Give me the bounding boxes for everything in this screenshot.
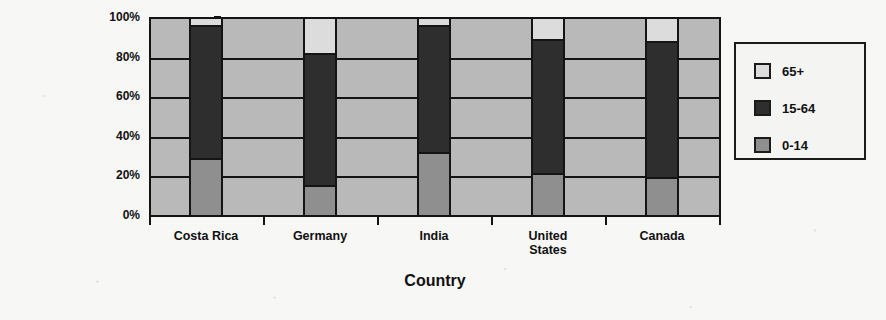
y-axis-tick-label: 20% — [72, 169, 140, 181]
legend-item[interactable]: 0-14 — [754, 137, 808, 153]
x-axis-tick-mark — [149, 217, 151, 225]
legend-label: 15-64 — [782, 101, 815, 116]
y-axis-tick-labels: 0%20%40%60%80%100% — [72, 10, 140, 222]
x-axis-title: Country — [149, 272, 721, 290]
x-axis-tick-label: Canada — [612, 229, 712, 243]
gridlines — [151, 19, 721, 217]
x-axis-tick-label: India — [384, 229, 484, 243]
x-axis-tick-label: Germany — [270, 229, 370, 243]
y-axis-tick-label: 60% — [72, 90, 140, 102]
y-axis-tick-label: 0% — [72, 209, 140, 221]
legend-item[interactable]: 15-64 — [754, 100, 815, 116]
plot-area — [149, 17, 721, 217]
legend-label: 0-14 — [782, 138, 808, 153]
gridline — [151, 176, 721, 178]
legend-swatch-icon — [754, 100, 771, 116]
x-axis-tick-mark — [719, 217, 721, 225]
gridline — [151, 137, 721, 139]
x-axis-tick-mark — [377, 217, 379, 225]
chart-legend: 65+15-640-14 — [734, 42, 866, 160]
gridline — [151, 97, 721, 99]
x-axis-tick-mark — [263, 217, 265, 225]
plot-right-border — [719, 17, 721, 217]
y-axis-tick-label: 80% — [72, 51, 140, 63]
stacked-bar-chart-figure: Percentage 0%20%40%60%80%100% Country 65… — [0, 0, 886, 320]
y-axis-tick-label: 100% — [72, 11, 140, 23]
y-axis-tick-label: 40% — [72, 130, 140, 142]
legend-swatch-icon — [754, 137, 771, 153]
x-axis-tick-mark — [491, 217, 493, 225]
legend-swatch-icon — [754, 63, 771, 79]
x-axis-tick-mark — [605, 217, 607, 225]
x-axis-tick-label: Costa Rica — [156, 229, 256, 243]
legend-item[interactable]: 65+ — [754, 63, 804, 79]
legend-label: 65+ — [782, 64, 804, 79]
x-axis-line — [149, 215, 721, 217]
x-axis-tick-label: United States — [498, 229, 598, 257]
gridline — [151, 58, 721, 60]
